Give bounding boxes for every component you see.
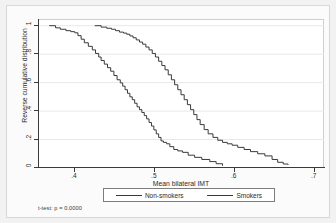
chart-canvas: 0.2.4.6.81 .4.5.6.7 Reverse cumulative d… <box>0 0 336 223</box>
legend-item-non-smokers[interactable]: Non-smokers <box>116 192 184 199</box>
y-tick <box>34 82 38 83</box>
y-tick <box>34 53 38 54</box>
line-swatch-icon <box>207 195 233 196</box>
series-line-smokers <box>95 26 288 165</box>
y-axis-title: Reverse cumulative distribution <box>21 1 28 151</box>
y-tick-label: 0 <box>9 162 31 169</box>
line-swatch-icon <box>116 195 142 196</box>
x-tick-label: .4 <box>62 172 86 179</box>
x-tick-label: .5 <box>142 172 166 179</box>
series-paths <box>49 26 288 166</box>
statistical-note: t-test: p = 0.0000 <box>38 205 82 211</box>
gridlines <box>38 26 324 168</box>
legend-label-smokers: Smokers <box>236 192 262 199</box>
x-tick-label: .7 <box>302 172 326 179</box>
series-line-non-smokers <box>49 26 222 166</box>
plot-svg <box>38 20 324 168</box>
x-tick-label: .6 <box>222 172 246 179</box>
graph-region: 0.2.4.6.81 .4.5.6.7 Reverse cumulative d… <box>6 5 330 218</box>
legend-label-non-smokers: Non-smokers <box>145 192 184 199</box>
plot-region <box>38 19 324 167</box>
y-tick <box>34 167 38 168</box>
y-tick <box>34 25 38 26</box>
x-axis-line <box>38 167 325 168</box>
legend-item-smokers[interactable]: Smokers <box>207 192 262 199</box>
x-axis-title: Mean bilateral IMT <box>38 180 324 187</box>
y-tick <box>34 110 38 111</box>
y-tick <box>34 139 38 140</box>
y-axis-line <box>38 19 39 168</box>
legend[interactable]: Non-smokers Smokers <box>103 188 275 202</box>
